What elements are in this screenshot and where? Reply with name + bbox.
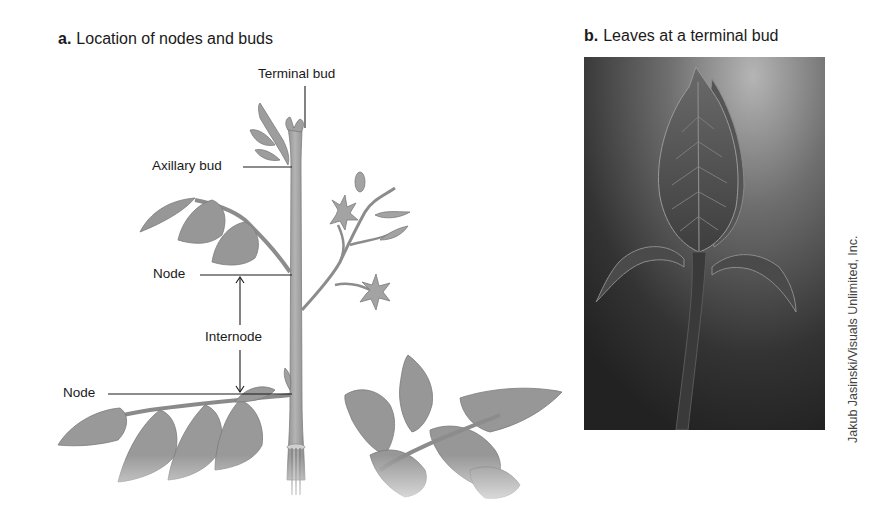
flower-branch	[302, 172, 410, 310]
upper-node-label: Node	[153, 266, 185, 281]
axillary-bud-label: Axillary bud	[152, 158, 222, 173]
upper-left-leaf	[250, 103, 289, 165]
internode-label: Internode	[205, 329, 262, 344]
lower-node-label: Node	[63, 385, 95, 400]
main-stem	[287, 128, 305, 495]
panel-b-letter: b.	[584, 27, 598, 44]
photo-image	[584, 57, 825, 430]
bottom-fade	[0, 455, 580, 524]
middle-left-compound-leaf	[140, 198, 290, 272]
panel-b-title: b.Leaves at a terminal bud	[584, 27, 778, 45]
terminal-bud-photo	[584, 57, 825, 430]
photo-credit: Jakub Jasinski/Visuals Unlimited, Inc.	[846, 236, 860, 444]
terminal-bud	[286, 117, 304, 132]
panel-b-title-text: Leaves at a terminal bud	[603, 27, 778, 44]
terminal-bud-label: Terminal bud	[258, 66, 335, 81]
